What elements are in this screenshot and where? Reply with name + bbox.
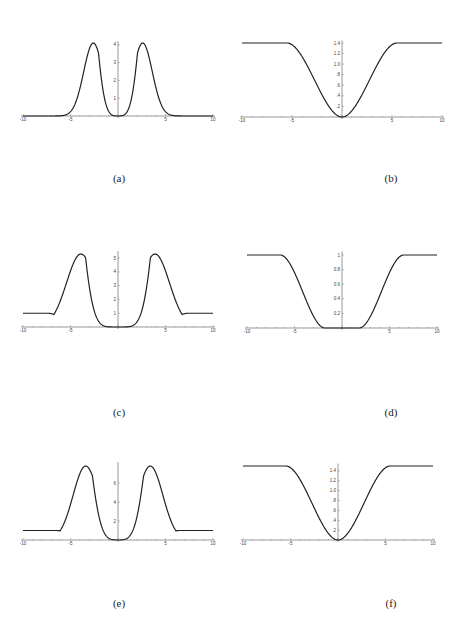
x-tick-label: 10 — [434, 329, 440, 334]
y-tick-label: 6 — [113, 481, 116, 486]
x-tick-label: -10 — [239, 118, 246, 123]
y-tick-label: 1.0 — [334, 62, 341, 67]
y-tick-label: 2 — [113, 519, 116, 524]
plot-e: -10-5510246 — [20, 462, 216, 546]
plots-canvas: -10-55101234-10-5510.2.4.6.81.01.21.4-10… — [0, 0, 465, 623]
plot-a: -10-55101234 — [20, 41, 216, 122]
y-tick-label: 2 — [113, 78, 116, 83]
x-tick-label: 5 — [164, 328, 167, 333]
caption-c: (c) — [104, 406, 134, 418]
y-tick-label: .6 — [332, 508, 336, 513]
y-tick-label: 3 — [113, 60, 116, 65]
y-tick-label: 1.4 — [330, 468, 337, 473]
caption-a: (a) — [104, 172, 134, 184]
y-tick-label: .4 — [332, 518, 336, 523]
y-tick-label: .2 — [332, 528, 336, 533]
y-tick-label: 4 — [113, 42, 116, 47]
y-tick-label: .2 — [336, 104, 340, 109]
x-tick-label: -5 — [68, 117, 72, 122]
x-tick-label: 10 — [210, 328, 216, 333]
y-tick-label: .8 — [332, 498, 336, 503]
x-tick-label: 5 — [384, 541, 387, 546]
y-tick-label: .4 — [336, 93, 340, 98]
plot-b: -10-5510.2.4.6.81.01.21.4 — [239, 40, 445, 123]
x-tick-label: -10 — [20, 328, 27, 333]
plot-f: -10-5510.2.4.6.81.01.21.4 — [240, 464, 436, 546]
plot-d: -10-55100.20.40.60.81 — [244, 251, 440, 334]
x-tick-label: 5 — [164, 541, 167, 546]
y-tick-label: 0.2 — [334, 311, 341, 316]
y-tick-label: 0.8 — [334, 267, 341, 272]
x-tick-label: -5 — [68, 328, 72, 333]
x-tick-label: -5 — [290, 118, 294, 123]
x-tick-label: 5 — [391, 118, 394, 123]
y-tick-label: 4 — [113, 500, 116, 505]
caption-b: (b) — [376, 172, 406, 184]
caption-e: (e) — [104, 597, 134, 609]
y-tick-label: .6 — [336, 83, 340, 88]
x-tick-label: -10 — [20, 117, 27, 122]
x-tick-label: 10 — [210, 541, 216, 546]
y-tick-label: 1 — [337, 253, 340, 258]
y-tick-label: 1.0 — [330, 488, 337, 493]
y-tick-label: 3 — [113, 283, 116, 288]
x-tick-label: -5 — [292, 329, 296, 334]
x-tick-label: -10 — [20, 541, 27, 546]
y-tick-label: 4 — [113, 269, 116, 274]
x-tick-label: 10 — [210, 117, 216, 122]
x-tick-label: 10 — [430, 541, 436, 546]
x-tick-label: 10 — [439, 118, 445, 123]
y-tick-label: 1 — [113, 96, 116, 101]
caption-f: (f) — [376, 597, 406, 609]
x-tick-label: -5 — [68, 541, 72, 546]
x-tick-label: -10 — [240, 541, 247, 546]
y-tick-label: .8 — [336, 72, 340, 77]
caption-d: (d) — [376, 406, 406, 418]
x-tick-label: -10 — [244, 329, 251, 334]
y-tick-label: 1.2 — [330, 478, 337, 483]
plot-c: -10-551012345 — [20, 251, 216, 333]
y-tick-label: 1.2 — [334, 51, 341, 56]
y-tick-label: 5 — [113, 256, 116, 261]
x-tick-label: 5 — [388, 329, 391, 334]
y-tick-label: 1.4 — [334, 41, 341, 46]
y-tick-label: 1 — [113, 311, 116, 316]
y-tick-label: 0.6 — [334, 282, 341, 287]
x-tick-label: -5 — [288, 541, 292, 546]
x-tick-label: 5 — [164, 117, 167, 122]
y-tick-label: 0.4 — [334, 296, 341, 301]
y-tick-label: 2 — [113, 297, 116, 302]
